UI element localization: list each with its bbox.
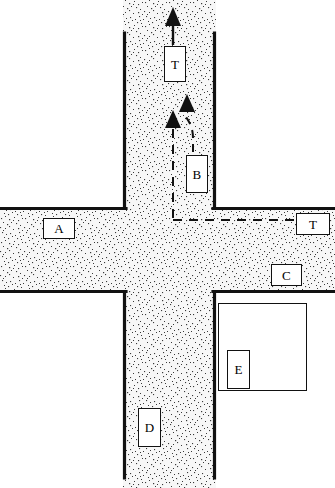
road-intersection-diagram: T B A T C E D: [0, 0, 335, 488]
label-text-b: B: [193, 168, 202, 181]
label-box-d: D: [138, 408, 161, 447]
label-text-d: D: [145, 421, 155, 434]
label-box-t-right: T: [296, 213, 330, 235]
label-text-c: C: [282, 269, 291, 282]
label-text-e: E: [234, 363, 242, 376]
label-text-a: A: [54, 222, 64, 235]
label-text-t-right: T: [309, 218, 317, 231]
label-box-a: A: [43, 218, 75, 239]
label-box-b: B: [186, 155, 208, 193]
label-box-c: C: [271, 264, 302, 286]
label-text-t-top: T: [171, 58, 179, 71]
label-box-t-top: T: [164, 46, 186, 82]
label-box-e: E: [227, 350, 250, 389]
